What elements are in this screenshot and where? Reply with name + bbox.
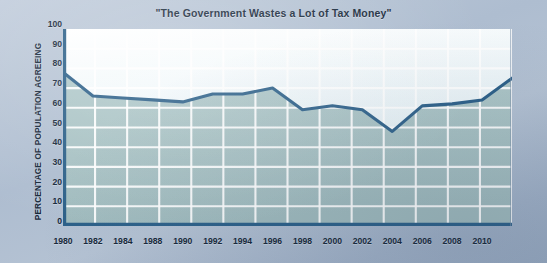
chart-title: "The Government Wastes a Lot of Tax Mone…: [0, 7, 547, 19]
y-tick-label: 50: [36, 118, 62, 128]
plot-area: [63, 29, 512, 226]
x-axis-tick-labels: 1980 1982 1984 1988 1990 1992 1994 1996 …: [63, 236, 512, 250]
y-tick-label: 60: [36, 98, 62, 108]
y-tick-label: 100: [36, 19, 62, 29]
y-tick-label: 30: [36, 157, 62, 167]
y-tick-label: 70: [36, 78, 62, 88]
y-tick-label: 80: [36, 58, 62, 68]
chart-figure: "The Government Wastes a Lot of Tax Mone…: [0, 0, 547, 263]
y-tick-label: 40: [36, 137, 62, 147]
y-tick-label: 20: [36, 177, 62, 187]
y-tick-label: 10: [36, 196, 62, 206]
x-tick-label: 2010: [462, 236, 502, 246]
y-tick-label: 0: [36, 216, 62, 226]
y-tick-label: 90: [36, 39, 62, 49]
y-axis-tick-labels: 100 90 80 70 60 50 40 30 20 10 0: [36, 24, 62, 232]
chart-plot-svg: [63, 29, 512, 226]
